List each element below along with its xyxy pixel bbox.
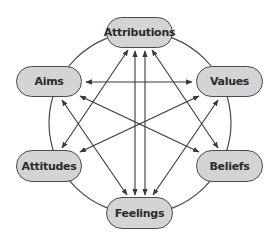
node-attitudes: Attitudes xyxy=(16,150,82,182)
node-values: Values xyxy=(196,66,263,97)
node-aims: Aims xyxy=(16,66,82,97)
edge-attributions-beliefs xyxy=(152,50,218,148)
node-attributions: Attributions xyxy=(106,17,173,48)
diagram-canvas: Attributions Aims Values Attitudes Belie… xyxy=(0,0,280,246)
edge-attributions-attitudes xyxy=(62,50,128,148)
node-feelings: Feelings xyxy=(106,197,173,229)
outer-circle xyxy=(49,32,231,214)
node-beliefs: Beliefs xyxy=(196,150,263,182)
